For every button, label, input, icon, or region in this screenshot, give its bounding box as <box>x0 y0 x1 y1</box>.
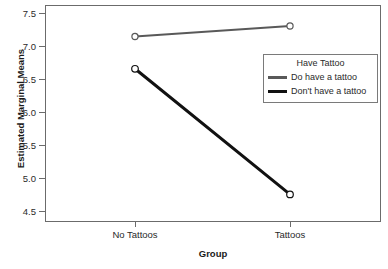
y-tick-mark <box>39 145 45 146</box>
y-tick: 5.0 <box>0 173 45 185</box>
legend-line-swatch-icon <box>268 90 287 93</box>
y-tick-label: 6.5 <box>23 74 36 86</box>
chart-title <box>0 0 388 1</box>
legend-item-dont-have-a-tattoo[interactable]: Don't have a tattoo <box>268 84 373 98</box>
y-tick-mark <box>39 79 45 80</box>
y-tick: 7.5 <box>0 8 45 20</box>
interaction-plot: Estimated Marginal Means 7.5 7.0 6.5 6.0… <box>0 0 388 269</box>
plot-area <box>45 5 381 222</box>
y-tick-label: 4.5 <box>23 206 36 218</box>
y-tick-mark <box>39 211 45 212</box>
x-tick-mark <box>290 222 291 227</box>
legend-item-label: Don't have a tattoo <box>291 84 366 98</box>
y-tick: 6.0 <box>0 107 45 119</box>
y-tick-label: 6.0 <box>23 107 36 119</box>
legend-item-do-have-a-tattoo[interactable]: Do have a tattoo <box>268 70 373 84</box>
x-axis-title: Group <box>45 248 381 259</box>
legend-title: Have Tattoo <box>268 58 373 68</box>
y-tick-label: 5.5 <box>23 140 36 152</box>
legend-line-swatch-icon <box>268 76 287 79</box>
y-tick: 6.5 <box>0 74 45 86</box>
x-tick-mark <box>135 222 136 227</box>
legend: Have Tattoo Do have a tattoo Don't have … <box>263 54 378 103</box>
y-tick-label: 5.0 <box>23 173 36 185</box>
y-tick: 4.5 <box>0 206 45 218</box>
y-tick-mark <box>39 112 45 113</box>
y-tick-label: 7.5 <box>23 8 36 20</box>
x-tick-label: No Tattoos <box>75 229 195 240</box>
y-tick: 5.5 <box>0 140 45 152</box>
y-tick-mark <box>39 46 45 47</box>
legend-item-label: Do have a tattoo <box>291 70 357 84</box>
x-tick-label: Tattoos <box>230 229 350 240</box>
y-tick: 7.0 <box>0 41 45 53</box>
y-tick-mark <box>39 178 45 179</box>
y-tick-mark <box>39 13 45 14</box>
y-tick-label: 7.0 <box>23 41 36 53</box>
